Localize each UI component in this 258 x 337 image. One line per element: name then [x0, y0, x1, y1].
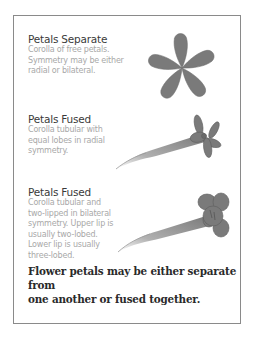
figure-caption: Flower petals may be either separate fro… — [28, 264, 238, 306]
section-description: Corolla of free petals. Symmetry may be … — [28, 45, 138, 77]
section-title: Petals Separate — [28, 33, 138, 45]
section-petals-separate: Petals Separate Corolla of free petals. … — [28, 33, 138, 77]
fused-radial-flower-illustration — [110, 106, 230, 186]
fused-bilateral-flower-illustration — [114, 186, 234, 266]
figure-frame: Petals Separate Corolla of free petals. … — [13, 15, 241, 324]
separate-petals-flower-illustration — [142, 28, 222, 108]
